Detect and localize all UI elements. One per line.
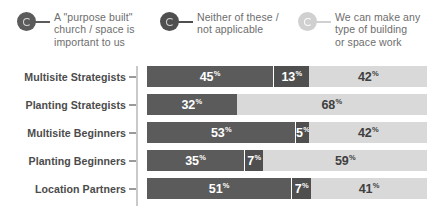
bar-segment: 45% [147, 66, 273, 87]
category-label: Planting Beginners [0, 150, 126, 171]
bar-segment: 51% [147, 178, 291, 199]
axis-tick [129, 132, 136, 134]
stacked-bar-chart: Multisite Strategists45%13%42%Planting S… [0, 62, 434, 210]
segment-value-label: 68% [321, 97, 342, 112]
legend-marker [298, 12, 335, 31]
percent-symbol: % [255, 153, 262, 162]
legend-marker [160, 12, 197, 31]
segment-value-label: 35% [185, 153, 206, 168]
bar-segment: 5% [295, 122, 309, 143]
segment-value-label: 5% [296, 125, 310, 140]
category-label: Multisite Strategists [0, 66, 126, 87]
legend-connector-line [29, 21, 50, 23]
stacked-bar: 45%13%42% [147, 66, 427, 87]
segment-value-label: 13% [281, 69, 302, 84]
percent-symbol: % [214, 69, 221, 78]
category-label: Location Partners [0, 178, 126, 199]
category-label: Planting Strategists [0, 94, 126, 115]
percent-symbol: % [223, 181, 230, 190]
axis-tick [129, 76, 136, 78]
percent-symbol: % [336, 97, 343, 106]
segment-value-label: 51% [209, 181, 230, 196]
chart-legend: A "purpose built" church / space is impo… [0, 0, 434, 62]
segment-value-label: 45% [200, 69, 221, 84]
bar-segment: 68% [237, 94, 427, 115]
legend-item-any-building: We can make any type of building or spac… [298, 11, 434, 48]
percent-symbol: % [196, 97, 203, 106]
segment-value-label: 41% [359, 181, 380, 196]
chart-row: Multisite Beginners53%5%42% [0, 122, 434, 143]
segment-value-label: 53% [211, 125, 232, 140]
legend-connector-line [172, 21, 193, 23]
stacked-bar: 32%68% [147, 94, 427, 115]
legend-item-label: A "purpose built" church / space is impo… [54, 11, 135, 48]
chart-row: Multisite Strategists45%13%42% [0, 66, 434, 87]
segment-value-label: 59% [335, 153, 356, 168]
stacked-bar: 53%5%42% [147, 122, 427, 143]
bar-segment: 7% [244, 150, 263, 171]
bar-segment: 35% [147, 150, 244, 171]
legend-marker [17, 12, 54, 31]
axis-tick [129, 160, 136, 162]
segment-value-label: 7% [295, 181, 309, 196]
chart-row: Location Partners51%7%41% [0, 178, 434, 199]
stacked-bar: 51%7%41% [147, 178, 427, 199]
segment-value-label: 42% [358, 125, 379, 140]
bar-segment: 53% [147, 122, 295, 143]
bar-segment: 13% [273, 66, 309, 87]
chart-row: Planting Strategists32%68% [0, 94, 434, 115]
percent-symbol: % [295, 69, 302, 78]
chart-row: Planting Beginners35%7%59% [0, 150, 434, 171]
percent-symbol: % [372, 125, 379, 134]
bar-segment: 41% [311, 178, 427, 199]
bar-segment: 42% [309, 122, 427, 143]
stacked-bar: 35%7%59% [147, 150, 427, 171]
percent-symbol: % [302, 181, 309, 190]
legend-item-neither: Neither of these / not applicable [160, 11, 298, 36]
bar-segment: 7% [291, 178, 311, 199]
category-label: Multisite Beginners [0, 122, 126, 143]
axis-tick [129, 188, 136, 190]
percent-symbol: % [199, 153, 206, 162]
legend-connector-line [310, 21, 331, 23]
axis-tick [129, 104, 136, 106]
bar-segment: 42% [309, 66, 427, 87]
percent-symbol: % [225, 125, 232, 134]
legend-item-label: We can make any type of building or spac… [335, 11, 420, 48]
percent-symbol: % [373, 181, 380, 190]
segment-value-label: 7% [247, 153, 261, 168]
segment-value-label: 42% [358, 69, 379, 84]
percent-symbol: % [349, 153, 356, 162]
bar-segment: 59% [263, 150, 427, 171]
bar-segment: 32% [147, 94, 237, 115]
segment-value-label: 32% [182, 97, 203, 112]
percent-symbol: % [372, 69, 379, 78]
legend-item-label: Neither of these / not applicable [197, 11, 279, 36]
legend-item-purpose-built: A "purpose built" church / space is impo… [17, 11, 157, 48]
